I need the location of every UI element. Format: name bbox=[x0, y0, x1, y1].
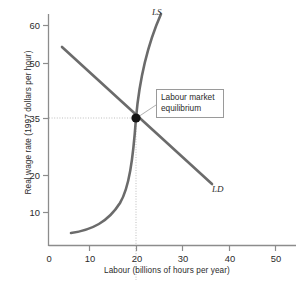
y-axis-ticks bbox=[43, 26, 49, 213]
x-tick-label-20: 20 bbox=[126, 253, 148, 264]
x-tick-label-50: 50 bbox=[265, 253, 287, 264]
demand-curve-label: LD bbox=[212, 184, 224, 194]
equilibrium-point-marker bbox=[131, 113, 140, 122]
y-tick-label-60: 60 bbox=[18, 20, 40, 31]
supply-curve-label: LS bbox=[152, 7, 162, 17]
x-tick-label-10: 10 bbox=[79, 253, 101, 264]
callout-line-2: equilibrium bbox=[161, 103, 219, 114]
x-tick-label-30: 30 bbox=[172, 253, 194, 264]
x-tick-label-0: 0 bbox=[38, 253, 60, 264]
x-axis-title: Labour (billions of hours per year) bbox=[104, 266, 230, 275]
y-axis-title: Real wage rate (1997 dollars per hour) bbox=[24, 33, 33, 213]
chart-canvas bbox=[0, 0, 301, 283]
labour-market-equilibrium-figure: 60 50 35 20 10 0 10 20 30 40 50 Real wag… bbox=[0, 0, 301, 283]
callout-line-1: Labour market bbox=[161, 92, 219, 103]
x-tick-label-40: 40 bbox=[219, 253, 241, 264]
callout-connector-line bbox=[138, 105, 156, 117]
x-axis-ticks bbox=[90, 246, 276, 252]
equilibrium-callout-box: Labour market equilibrium bbox=[156, 89, 224, 118]
